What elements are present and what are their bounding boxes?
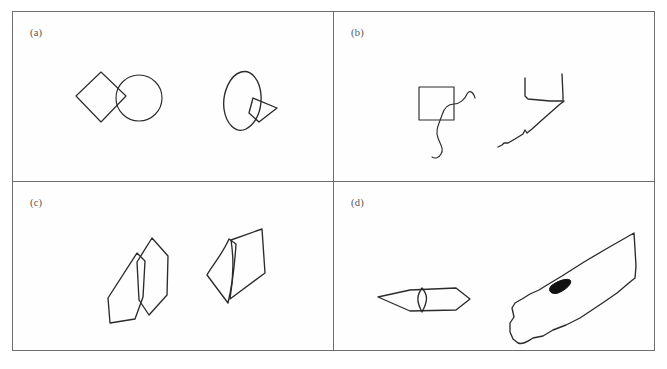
shape-diamond-circle-pair xyxy=(76,72,162,122)
shape-u-diagonal-pair xyxy=(498,74,564,147)
panel-b: (b) xyxy=(334,12,655,181)
figure-root: (a) (b) xyxy=(0,0,667,369)
panel-b-drawing xyxy=(334,12,655,181)
open-square-shape xyxy=(525,78,562,101)
petal-polygon-right xyxy=(137,238,168,315)
inner-diamond-shape xyxy=(418,288,427,312)
panel-d-drawing xyxy=(334,182,655,351)
panel-c: (c) xyxy=(13,182,333,351)
panel-label-b: (b) xyxy=(351,28,364,39)
panel-d: (d) xyxy=(334,182,655,351)
square-shape xyxy=(419,87,454,120)
diamond-shape xyxy=(76,72,126,122)
panel-c-drawing xyxy=(13,182,333,351)
shape-ellipse-kite-pair xyxy=(224,72,277,131)
small-kite-shape xyxy=(249,98,277,122)
shape-blade-polygon-with-blob xyxy=(510,233,636,344)
circle-shape xyxy=(116,75,162,121)
shape-flat-hexagon-with-diamond xyxy=(378,288,470,312)
panel-a-drawing xyxy=(13,12,333,181)
irregular-blade-polygon xyxy=(510,233,636,344)
panel-label-a: (a) xyxy=(30,28,42,39)
shape-folded-quadrilaterals xyxy=(207,229,265,303)
panel-label-c: (c) xyxy=(30,198,42,209)
quadrilateral-right xyxy=(230,229,265,299)
diagonal-squiggle-shape xyxy=(498,101,564,147)
panel-label-d: (d) xyxy=(351,198,364,209)
shape-overlapping-petals xyxy=(108,238,168,323)
shape-square-squiggle-pair xyxy=(419,87,475,158)
tilted-ellipse-shape xyxy=(224,72,261,131)
petal-polygon-left xyxy=(108,253,145,323)
open-square-right-stroke xyxy=(562,74,563,102)
panel-a: (a) xyxy=(13,12,333,181)
